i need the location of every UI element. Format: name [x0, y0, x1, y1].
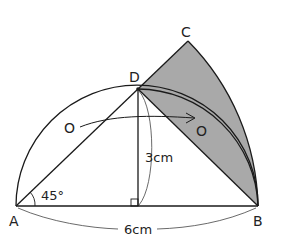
label-b: B [253, 213, 263, 229]
label-height: 3cm [145, 150, 173, 165]
angle-arc-a [30, 192, 35, 206]
point-d-dot [136, 87, 140, 91]
label-a: A [9, 213, 19, 229]
height-dimension-curve [139, 91, 152, 205]
label-o-end: O [196, 123, 207, 139]
base-dimension-curve-right [157, 208, 256, 229]
segment-ac [16, 41, 188, 206]
geometry-diagram: A B C D O O 45° 3cm 6cm [0, 0, 281, 238]
label-angle: 45° [41, 188, 64, 203]
base-dimension-curve-left [18, 208, 118, 229]
label-d: D [129, 69, 140, 85]
label-c: C [181, 24, 191, 40]
right-angle-marker [131, 199, 138, 206]
label-o-start: O [64, 120, 75, 136]
label-base: 6cm [124, 222, 152, 237]
